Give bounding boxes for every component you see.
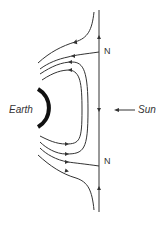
neutral-point-top: N xyxy=(104,46,111,56)
field-lines-bottom xyxy=(38,110,99,210)
earth-label: Earth xyxy=(9,104,33,115)
neutral-point-bottom: N xyxy=(104,156,111,166)
arrow-up-icon xyxy=(97,186,101,190)
earth-arc xyxy=(38,89,49,127)
arrow-down-icon xyxy=(97,108,101,112)
sun-arrow-icon xyxy=(114,108,119,112)
sun-label: Sun xyxy=(138,104,156,115)
arrow-up-icon xyxy=(97,35,101,39)
